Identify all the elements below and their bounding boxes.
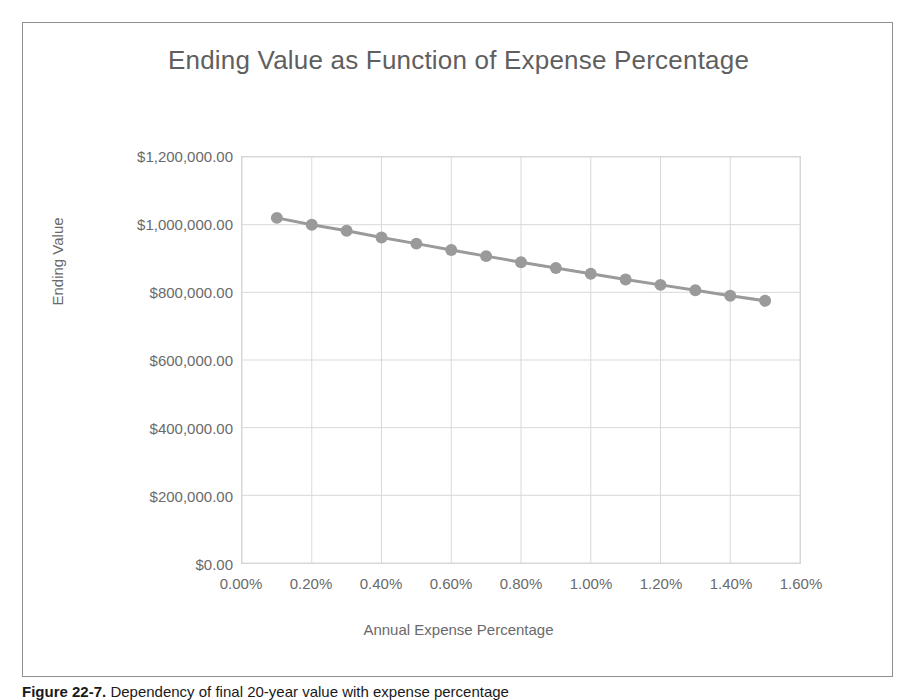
data-point-marker bbox=[410, 238, 422, 250]
x-axis-tick-label: 1.60% bbox=[761, 575, 841, 592]
data-point-marker bbox=[724, 290, 736, 302]
data-point-marker bbox=[306, 219, 318, 231]
y-axis-tick-label: $1,000,000.00 bbox=[73, 216, 233, 233]
figure-caption-label: Figure 22-7. bbox=[22, 683, 106, 700]
x-axis-tick-label: 0.60% bbox=[411, 575, 491, 592]
figure-caption: Figure 22-7. Dependency of final 20-year… bbox=[22, 683, 902, 700]
x-axis-tick-labels: 0.00%0.20%0.40%0.60%0.80%1.00%1.20%1.40%… bbox=[241, 575, 801, 599]
x-axis-tick-label: 1.00% bbox=[551, 575, 631, 592]
data-point-marker bbox=[376, 232, 388, 244]
y-axis-tick-label: $400,000.00 bbox=[73, 420, 233, 437]
x-axis-tick-label: 0.00% bbox=[201, 575, 281, 592]
data-point-marker bbox=[515, 256, 527, 268]
y-axis-tick-label: $0.00 bbox=[73, 556, 233, 573]
data-point-marker bbox=[620, 274, 632, 286]
data-point-marker bbox=[689, 284, 701, 296]
y-axis-tick-label: $200,000.00 bbox=[73, 488, 233, 505]
data-point-marker bbox=[341, 225, 353, 237]
data-point-marker bbox=[655, 279, 667, 291]
y-axis-tick-label: $600,000.00 bbox=[73, 352, 233, 369]
y-axis-tick-labels: $1,200,000.00$1,000,000.00$800,000.00$60… bbox=[63, 156, 233, 564]
y-axis-tick-label: $1,200,000.00 bbox=[73, 148, 233, 165]
x-axis-tick-label: 1.20% bbox=[621, 575, 701, 592]
data-point-marker bbox=[445, 244, 457, 256]
figure-frame: Ending Value as Function of Expense Perc… bbox=[22, 22, 893, 677]
y-axis-tick-label: $800,000.00 bbox=[73, 284, 233, 301]
x-axis-tick-label: 0.20% bbox=[271, 575, 351, 592]
x-axis-tick-label: 0.80% bbox=[481, 575, 561, 592]
data-point-marker bbox=[585, 268, 597, 280]
x-axis-tick-label: 1.40% bbox=[691, 575, 771, 592]
plot-area bbox=[241, 156, 801, 564]
x-axis-title: Annual Expense Percentage bbox=[23, 621, 894, 638]
x-axis-tick-label: 0.40% bbox=[341, 575, 421, 592]
chart-title: Ending Value as Function of Expense Perc… bbox=[23, 45, 894, 76]
figure-caption-text: Dependency of final 20-year value with e… bbox=[110, 683, 509, 700]
data-point-marker bbox=[759, 295, 771, 307]
data-series-line bbox=[242, 157, 800, 563]
data-point-marker bbox=[550, 262, 562, 274]
data-point-marker bbox=[271, 212, 283, 224]
data-point-marker bbox=[480, 250, 492, 262]
